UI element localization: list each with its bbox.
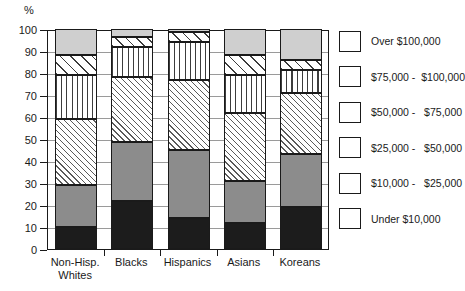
legend-item-label: $10,000 - $25,000 xyxy=(371,177,462,189)
bar-segment xyxy=(280,207,322,249)
bar-segment xyxy=(280,70,322,93)
bar-segment xyxy=(168,29,210,32)
y-tick-label-60: 60 xyxy=(25,112,37,124)
bar-segment xyxy=(111,142,153,200)
y-tick-100 xyxy=(40,30,47,31)
legend-swatch-50k-75k xyxy=(339,102,361,123)
y-tick-50 xyxy=(40,140,47,141)
bar-segment xyxy=(111,29,153,37)
x-axis-category-label-line: Whites xyxy=(15,269,135,282)
legend-item-label: Over $100,000 xyxy=(371,35,440,47)
bar-segment xyxy=(280,29,322,60)
bar-segment xyxy=(168,80,210,150)
legend-item-label: $25,000 - $50,000 xyxy=(371,142,462,154)
bar-segment xyxy=(224,29,266,55)
legend-item-label: $75,000 - $100,000 xyxy=(371,71,465,83)
bar-segment xyxy=(55,29,97,55)
bar-segment xyxy=(280,60,322,70)
legend-item[interactable]: $50,000 - $75,000 xyxy=(339,101,462,123)
legend-item[interactable]: $75,000 - $100,000 xyxy=(339,66,465,88)
y-tick-label-10: 10 xyxy=(25,222,37,234)
bar-segment xyxy=(168,32,210,42)
stacked-bar-chart: % 0102030405060708090100 Over $100,000$7… xyxy=(0,0,465,291)
bar-segment xyxy=(111,47,153,78)
bar-segment xyxy=(55,185,97,227)
y-tick-0 xyxy=(40,250,47,251)
bar-segment xyxy=(168,150,210,218)
x-tick-3 xyxy=(217,249,218,256)
bar-segment xyxy=(168,218,210,249)
legend-swatch-10k-25k xyxy=(339,173,361,194)
y-tick-90 xyxy=(40,52,47,53)
bar-segment xyxy=(111,201,153,249)
x-tick-4 xyxy=(273,249,274,256)
bar-stack xyxy=(168,29,210,249)
bar-stack xyxy=(224,29,266,249)
bar-segment xyxy=(111,37,153,47)
bar-segment xyxy=(55,75,97,119)
plot-area: 0102030405060708090100 xyxy=(47,30,328,250)
y-axis-unit-label: % xyxy=(24,4,34,16)
y-tick-label-90: 90 xyxy=(25,46,37,58)
y-tick-label-20: 20 xyxy=(25,200,37,212)
y-tick-10 xyxy=(40,228,47,229)
y-tick-40 xyxy=(40,162,47,163)
bar-segment xyxy=(224,223,266,249)
bar-segment xyxy=(55,227,97,249)
y-tick-label-40: 40 xyxy=(25,156,37,168)
y-tick-80 xyxy=(40,74,47,75)
legend-swatch-over-100k xyxy=(339,31,361,52)
y-tick-60 xyxy=(40,118,47,119)
legend-swatch-25k-50k xyxy=(339,137,361,158)
legend-item-label: Under $10,000 xyxy=(371,213,440,225)
bar-segment xyxy=(224,55,266,75)
legend-swatch-under-10k xyxy=(339,208,361,229)
legend-item[interactable]: $25,000 - $50,000 xyxy=(339,137,462,159)
legend-item[interactable]: $10,000 - $25,000 xyxy=(339,172,462,194)
bar-stack xyxy=(55,29,97,249)
bar-segment xyxy=(168,42,210,79)
y-tick-label-80: 80 xyxy=(25,68,37,80)
bar-segment xyxy=(224,113,266,181)
legend-item[interactable]: Under $10,000 xyxy=(339,208,440,230)
y-tick-label-70: 70 xyxy=(25,90,37,102)
bar-stack xyxy=(111,29,153,249)
x-axis-category-label: Koreans xyxy=(240,256,360,269)
legend-swatch-75k-100k xyxy=(339,66,361,87)
x-axis-category-label-line: Koreans xyxy=(240,256,360,269)
y-tick-label-0: 0 xyxy=(31,244,37,256)
y-tick-label-100: 100 xyxy=(19,24,37,36)
y-tick-label-30: 30 xyxy=(25,178,37,190)
bar-stack xyxy=(280,29,322,249)
bar-segment xyxy=(111,77,153,142)
x-tick-1 xyxy=(104,249,105,256)
y-tick-70 xyxy=(40,96,47,97)
y-tick-30 xyxy=(40,184,47,185)
bar-segment xyxy=(55,119,97,185)
legend-item-label: $50,000 - $75,000 xyxy=(371,106,462,118)
bar-segment xyxy=(55,55,97,75)
legend-item[interactable]: Over $100,000 xyxy=(339,30,440,52)
x-tick-2 xyxy=(160,249,161,256)
bar-segment xyxy=(280,93,322,155)
bar-segment xyxy=(280,154,322,207)
plot-right-edge xyxy=(328,30,329,250)
bar-segment xyxy=(224,75,266,112)
bar-segment xyxy=(224,181,266,223)
y-tick-label-50: 50 xyxy=(25,134,37,146)
y-tick-20 xyxy=(40,206,47,207)
